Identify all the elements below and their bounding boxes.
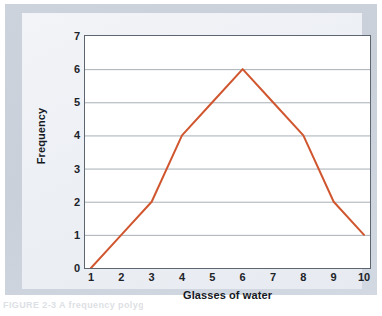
x-tick-label: 5 xyxy=(200,272,224,283)
frequency-polygon-svg xyxy=(85,36,370,268)
x-tick-label: 7 xyxy=(261,272,285,283)
y-tick-label: 3 xyxy=(60,163,80,174)
figure-mount: 01234567 12345678910 Glasses of water Fr… xyxy=(5,4,377,295)
x-tick-label: 9 xyxy=(322,272,346,283)
x-tick-label: 1 xyxy=(79,272,103,283)
x-tick-label: 2 xyxy=(109,272,133,283)
y-tick-label: 6 xyxy=(60,64,80,75)
y-tick-label: 0 xyxy=(60,263,80,274)
y-tick-label: 4 xyxy=(60,130,80,141)
plot-area xyxy=(84,35,371,269)
x-tick-label: 6 xyxy=(231,272,255,283)
y-axis-tick-labels: 01234567 xyxy=(56,35,80,269)
figure-caption-stub: FIGURE 2-3 A frequency polygon xyxy=(3,300,143,311)
frequency-polygon-line xyxy=(91,69,364,268)
y-tick-label: 7 xyxy=(60,31,80,42)
y-tick-label: 1 xyxy=(60,229,80,240)
x-tick-label: 3 xyxy=(140,272,164,283)
x-tick-label: 8 xyxy=(291,272,315,283)
x-tick-label: 4 xyxy=(170,272,194,283)
y-axis-title: Frequency xyxy=(35,76,47,196)
y-tick-label: 5 xyxy=(60,97,80,108)
figure-plate: 01234567 12345678910 Glasses of water Fr… xyxy=(22,13,362,289)
figure-root: 01234567 12345678910 Glasses of water Fr… xyxy=(0,0,382,316)
y-tick-label: 2 xyxy=(60,196,80,207)
x-tick-label: 10 xyxy=(352,272,376,283)
x-axis-tick-labels: 12345678910 xyxy=(84,272,371,288)
